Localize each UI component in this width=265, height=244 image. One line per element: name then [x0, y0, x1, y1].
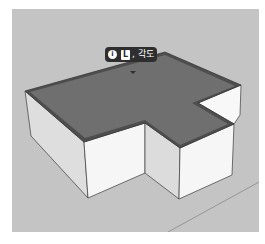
- model-scene[interactable]: [12, 9, 259, 232]
- inference-tooltip: i L , 각도: [105, 47, 157, 62]
- modifier-key-badge: L: [121, 50, 130, 60]
- tooltip-tail: [130, 71, 136, 74]
- tooltip-label: , 각도: [132, 47, 154, 62]
- 3d-viewport[interactable]: [12, 9, 259, 232]
- info-icon: i: [108, 50, 117, 59]
